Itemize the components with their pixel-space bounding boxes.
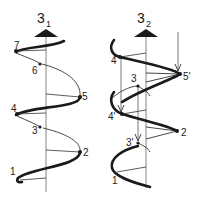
left-back-strand-3-2 bbox=[43, 128, 80, 152]
left-point-6-dot bbox=[38, 62, 41, 65]
left-back-strand-6-5 bbox=[42, 64, 80, 97]
left-rung-1 bbox=[20, 178, 46, 180]
right-helix-3-2: 3 2 bbox=[108, 10, 191, 188]
right-label-1: 1 bbox=[112, 175, 118, 186]
left-front-strand-2-1 bbox=[17, 152, 80, 182]
right-helix-title: 3 bbox=[137, 10, 145, 26]
right-point-5prime-dot bbox=[178, 72, 182, 76]
right-label-3: 3 bbox=[131, 73, 137, 84]
left-label-3: 3 bbox=[32, 125, 38, 136]
right-rung-1 bbox=[117, 167, 146, 172]
right-rung-5prime-upper bbox=[146, 73, 180, 74]
right-axis-arrow-icon bbox=[134, 29, 158, 37]
right-point-4-dot bbox=[118, 55, 122, 59]
right-back-strand-3prime bbox=[138, 143, 150, 152]
left-helix-title: 3 bbox=[37, 10, 45, 26]
right-rung-2-lower bbox=[146, 131, 177, 139]
left-helix-3-1: 3 1 bbox=[10, 10, 89, 192]
left-label-1: 1 bbox=[10, 166, 16, 177]
right-point-3-dot bbox=[136, 84, 139, 87]
left-label-6: 6 bbox=[32, 65, 38, 76]
left-label-2: 2 bbox=[83, 147, 89, 158]
left-back-strand-7-6 bbox=[16, 53, 40, 64]
left-axis-arrow-icon bbox=[34, 29, 58, 37]
left-point-2-dot bbox=[78, 150, 82, 154]
right-helix-title-subscript: 2 bbox=[146, 19, 151, 29]
right-label-3prime: 3' bbox=[126, 137, 134, 148]
left-helix-title-subscript: 1 bbox=[46, 19, 51, 29]
left-label-5: 5 bbox=[82, 91, 88, 102]
right-point-4prime-dot bbox=[120, 112, 124, 116]
right-rung-4 bbox=[120, 53, 146, 57]
right-label-4prime: 4' bbox=[108, 111, 116, 122]
right-label-5prime: 5' bbox=[183, 71, 191, 82]
left-label-7: 7 bbox=[14, 40, 20, 51]
left-label-4: 4 bbox=[11, 103, 17, 114]
left-point-3-dot bbox=[38, 125, 41, 128]
right-point-2-dot bbox=[175, 129, 179, 133]
helix-diagram: 3 1 bbox=[0, 0, 201, 198]
right-label-2: 2 bbox=[181, 127, 187, 138]
left-front-strand-5-4 bbox=[16, 97, 80, 115]
right-rung-4prime bbox=[122, 110, 146, 114]
left-rung-2 bbox=[46, 150, 80, 152]
right-label-4: 4 bbox=[111, 55, 117, 66]
left-rung-5 bbox=[46, 94, 80, 97]
right-point-3prime-dot bbox=[136, 141, 139, 144]
